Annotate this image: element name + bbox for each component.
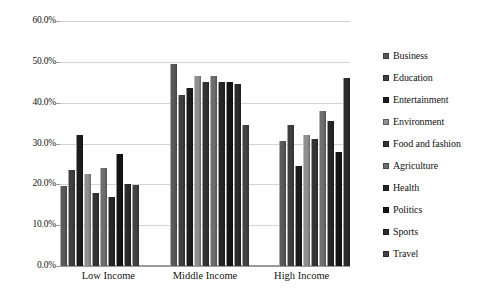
- bar-group: [60, 21, 139, 266]
- legend-item-label: Health: [393, 183, 419, 193]
- bar[interactable]: [335, 152, 342, 266]
- legend-swatch-icon: [383, 185, 389, 191]
- bar[interactable]: [68, 170, 75, 266]
- legend-swatch-icon: [383, 229, 389, 235]
- legend-swatch-icon: [383, 119, 389, 125]
- legend-swatch-icon: [383, 251, 389, 257]
- y-axis-tick-label: 0.0%: [8, 261, 56, 271]
- legend-item[interactable]: Travel: [383, 243, 491, 265]
- y-axis-tick-label: 20.0%: [8, 179, 56, 189]
- bar[interactable]: [202, 82, 209, 266]
- legend-item-label: Politics: [393, 205, 422, 215]
- bar[interactable]: [132, 185, 139, 266]
- bar[interactable]: [100, 168, 107, 266]
- x-axis-category-label: Low Income: [60, 270, 157, 281]
- bar-group: [279, 21, 350, 266]
- y-axis-tick-mark: [55, 266, 60, 267]
- legend-item[interactable]: Entertainment: [383, 89, 491, 111]
- legend-item-label: Business: [393, 51, 428, 61]
- y-axis-tick-label: 60.0%: [8, 16, 56, 26]
- bar[interactable]: [194, 76, 201, 266]
- legend-swatch-icon: [383, 141, 389, 147]
- legend-swatch-icon: [383, 75, 389, 81]
- bar[interactable]: [303, 135, 310, 266]
- bar[interactable]: [327, 121, 334, 266]
- bar[interactable]: [84, 174, 91, 266]
- plot-area: [60, 21, 350, 266]
- legend-item-label: Environment: [393, 117, 444, 127]
- legend-item[interactable]: Agriculture: [383, 155, 491, 177]
- legend-item-label: Food and fashion: [393, 139, 461, 149]
- bar-chart: 60.0%50.0%40.0%30.0%20.0%10.0%0.0% Low I…: [0, 0, 491, 303]
- bar[interactable]: [287, 125, 294, 266]
- bar[interactable]: [60, 186, 67, 266]
- bar[interactable]: [92, 193, 99, 267]
- legend-swatch-icon: [383, 97, 389, 103]
- x-axis-category-label: High Income: [253, 270, 350, 281]
- bar[interactable]: [226, 82, 233, 266]
- legend-item[interactable]: Sports: [383, 221, 491, 243]
- bar[interactable]: [108, 197, 115, 266]
- legend-swatch-icon: [383, 53, 389, 59]
- y-axis-tick-label: 40.0%: [8, 98, 56, 108]
- legend-item[interactable]: Business: [383, 45, 491, 67]
- bar[interactable]: [178, 95, 185, 267]
- legend-item-label: Sports: [393, 227, 418, 237]
- bar[interactable]: [343, 78, 350, 266]
- legend-item-label: Agriculture: [393, 161, 438, 171]
- legend-item-label: Entertainment: [393, 95, 448, 105]
- bar[interactable]: [76, 135, 83, 266]
- legend-item-label: Travel: [393, 249, 418, 259]
- bar[interactable]: [295, 166, 302, 266]
- bar[interactable]: [186, 88, 193, 266]
- bar-group: [170, 21, 249, 266]
- legend-item[interactable]: Food and fashion: [383, 133, 491, 155]
- x-axis-category-label: Middle Income: [157, 270, 254, 281]
- bar-groups: [60, 21, 350, 266]
- bar[interactable]: [279, 141, 286, 266]
- legend-item[interactable]: Education: [383, 67, 491, 89]
- bar[interactable]: [311, 139, 318, 266]
- chart-legend: BusinessEducationEntertainmentEnvironmen…: [383, 45, 491, 265]
- legend-item[interactable]: Health: [383, 177, 491, 199]
- bar[interactable]: [319, 111, 326, 266]
- legend-item-label: Education: [393, 73, 433, 83]
- gridline: [60, 266, 350, 267]
- legend-item[interactable]: Environment: [383, 111, 491, 133]
- bar[interactable]: [116, 154, 123, 266]
- bar[interactable]: [170, 64, 177, 266]
- y-axis-tick-label: 50.0%: [8, 57, 56, 67]
- legend-swatch-icon: [383, 163, 389, 169]
- bar[interactable]: [242, 125, 249, 266]
- x-axis-labels: Low IncomeMiddle IncomeHigh Income: [60, 270, 350, 281]
- bar[interactable]: [124, 184, 131, 266]
- legend-item[interactable]: Politics: [383, 199, 491, 221]
- y-axis-tick-label: 10.0%: [8, 220, 56, 230]
- bar[interactable]: [218, 82, 225, 266]
- y-axis-tick-label: 30.0%: [8, 139, 56, 149]
- bar[interactable]: [210, 76, 217, 266]
- legend-swatch-icon: [383, 207, 389, 213]
- bar[interactable]: [234, 84, 241, 266]
